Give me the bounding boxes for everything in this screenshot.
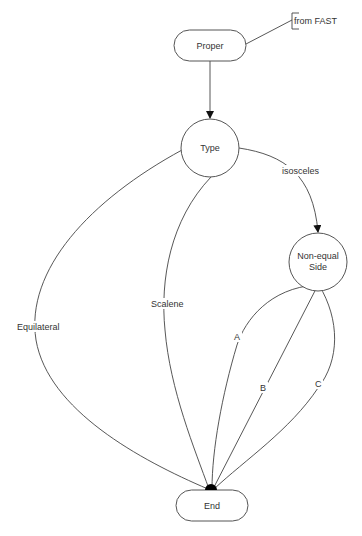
edge-curve [35, 150, 208, 489]
edge-label-a: A [234, 332, 240, 342]
node-proper[interactable]: Proper [174, 30, 246, 61]
annotation-connector [246, 20, 292, 44]
annotation-label: from FAST [294, 16, 338, 26]
edge-type-to-non-equal-side: isosceles [239, 148, 320, 232]
node-end[interactable]: End [176, 484, 248, 521]
edge-non-equal-to-end-b: B [213, 285, 318, 489]
node-non-equal-side[interactable]: Non-equal Side [289, 233, 347, 291]
node-non-equal-side-label-line2: Side [309, 262, 327, 272]
node-proper-label: Proper [196, 41, 223, 51]
edge-label-b: B [260, 383, 266, 393]
edge-non-equal-to-end-c: C [214, 285, 335, 489]
node-non-equal-side-label-line1: Non-equal [297, 251, 339, 261]
node-end-label: End [204, 501, 220, 511]
node-type-label: Type [200, 143, 220, 153]
edge-type-to-end-equilateral: Equilateral [16, 150, 208, 489]
annotation-from-fast: from FAST [246, 13, 338, 44]
edge-label-c: C [315, 379, 322, 389]
edge-label-equilateral: Equilateral [17, 322, 60, 332]
flow-diagram: from FAST isosceles Equilateral Scalene … [0, 0, 362, 536]
edge-label-isosceles: isosceles [282, 166, 320, 176]
arrow-curve [239, 148, 318, 232]
edge-type-to-end-scalene: Scalene [150, 177, 211, 489]
node-type[interactable]: Type [181, 119, 239, 177]
edge-label-scalene: Scalene [151, 299, 184, 309]
edge-curve [164, 177, 211, 489]
